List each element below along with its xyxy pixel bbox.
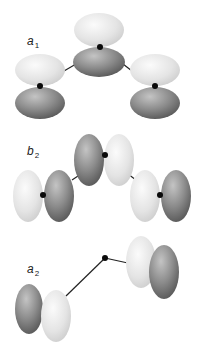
panel-label-b2: b2 [27, 144, 40, 160]
atom-dot [40, 192, 46, 198]
orbital-diagram: a1 b2 [0, 0, 203, 355]
lobe-dark [161, 170, 191, 222]
lobe-dark [15, 87, 65, 119]
orbital-left-atom [15, 284, 71, 342]
lobe-light [74, 13, 124, 47]
atom-dot [37, 83, 43, 89]
atom-dot [152, 83, 158, 89]
bond-left [66, 258, 105, 296]
orbital-diagram-svg: a1 b2 [0, 0, 203, 355]
lobe-light [130, 54, 180, 86]
lobe-dark [149, 245, 179, 299]
lobe-dark [15, 284, 43, 334]
lobe-dark [74, 134, 104, 186]
atom-dot [157, 192, 163, 198]
orbital-center-atom [74, 134, 134, 186]
orbital-right-atom [130, 54, 180, 119]
orbital-center-atom [73, 13, 125, 77]
panel-b2: b2 [13, 134, 191, 222]
orbital-left-atom [13, 170, 74, 222]
lobe-dark [73, 47, 125, 77]
lobe-light [104, 134, 134, 186]
atom-dot-center [102, 255, 108, 261]
lobe-light [15, 54, 65, 86]
lobe-light [41, 290, 71, 342]
orbital-right-atom [126, 236, 179, 299]
panel-a1: a1 [15, 13, 180, 119]
panel-label-a2: a2 [27, 262, 40, 278]
atom-dot [97, 44, 103, 50]
lobe-dark [44, 170, 74, 222]
orbital-right-atom [130, 170, 191, 222]
panel-label-a1: a1 [27, 34, 40, 50]
orbital-left-atom [15, 54, 65, 119]
lobe-light [13, 170, 43, 222]
panel-a2: a2 [15, 236, 179, 342]
lobe-dark [130, 87, 180, 119]
lobe-light [130, 170, 160, 222]
atom-dot [102, 152, 108, 158]
